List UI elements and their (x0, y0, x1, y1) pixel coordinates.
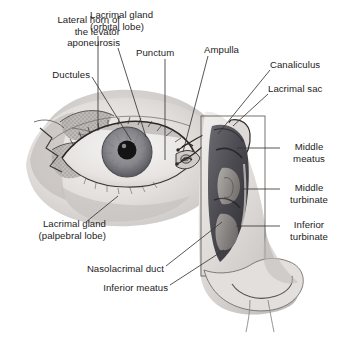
label-lacrimal-sac: Lacrimal sac (268, 83, 338, 95)
label-nasolacrimal-duct: Nasolacrimal duct (58, 263, 164, 275)
label-middle-turbinate: Middle turbinate (283, 182, 335, 205)
label-inferior-meatus: Inferior meatus (82, 282, 168, 294)
label-lacrimal-gland-palpebral: Lacrimal gland (palpebral lobe) (8, 218, 106, 241)
label-ductules: Ductules (12, 69, 90, 81)
label-middle-meatus: Middle meatus (283, 141, 335, 164)
label-ampulla: Ampulla (204, 44, 260, 56)
anatomy-figure: Lateral horn of the levator aponeurosis … (0, 0, 338, 340)
label-punctum: Punctum (136, 47, 198, 59)
leader-lacrimal-sac (233, 94, 268, 126)
label-lacrimal-gland-orbital: Lacrimal gland (orbital lobe) (90, 9, 182, 32)
label-inferior-turbinate: Inferior turbinate (283, 219, 335, 242)
label-canaliculus: Canaliculus (270, 59, 338, 71)
eye-illustration (26, 90, 226, 226)
